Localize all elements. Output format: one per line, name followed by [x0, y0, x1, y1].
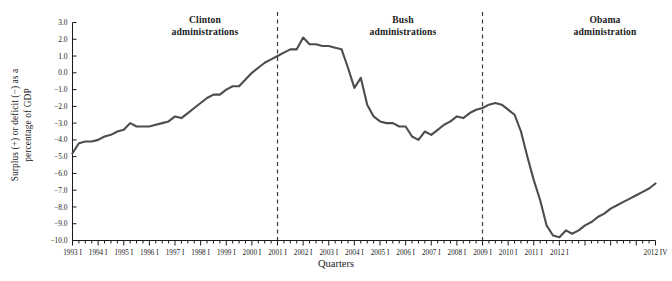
x-axis-tick-label: 2000 I — [243, 249, 262, 257]
x-axis-tick-label: 1995 I — [114, 249, 133, 257]
plot-area: 3.02.01.00.0−1.0−2.0−3.0−4.0−5.0−6.0−7.0… — [0, 0, 672, 281]
x-axis-tick-label: 2010 I — [499, 249, 518, 257]
x-axis-tick-label: 2009 I — [473, 249, 492, 257]
x-axis-tick-label: 2001 I — [268, 249, 287, 257]
y-axis-tick-label: −1.0 — [54, 85, 68, 94]
x-axis-tick-label: 2005 I — [371, 249, 390, 257]
x-axis-tick-label: 2011 I — [525, 249, 544, 257]
chart-figure: Surplus (+) or deficit (−) as a percenta… — [0, 0, 672, 281]
y-axis-tick-label: 3.0 — [58, 18, 68, 27]
series-line-deficit — [73, 38, 656, 238]
y-axis-tick-label: 1.0 — [58, 52, 68, 61]
x-axis-tick-label: 2004 I — [345, 249, 364, 257]
x-axis-tick-label: 1993 I — [63, 249, 82, 257]
y-axis: 3.02.01.00.0−1.0−2.0−3.0−4.0−5.0−6.0−7.0… — [50, 18, 76, 245]
y-axis-tick-label: −3.0 — [54, 119, 68, 128]
y-axis-tick-label: −6.0 — [54, 169, 68, 178]
x-axis-tick-label: 2007 I — [422, 249, 441, 257]
y-axis-tick-label: −2.0 — [54, 102, 68, 111]
x-axis-tick-label: 1997 I — [166, 249, 185, 257]
x-axis-tick-label: 1996 I — [140, 249, 159, 257]
x-axis-tick-label: 2012 I — [550, 249, 569, 257]
y-axis-tick-label: −5.0 — [54, 152, 68, 161]
data-series — [73, 38, 656, 238]
x-axis-tick-label: 2008 I — [448, 249, 467, 257]
administration-dividers — [278, 12, 483, 241]
x-axis-tick-label: 1994 I — [89, 249, 108, 257]
x-axis-tick-label: 1999 I — [217, 249, 236, 257]
x-axis-tick-label: 2003 I — [319, 249, 338, 257]
x-axis-tick-label: 2012 IV — [644, 249, 669, 257]
y-axis-tick-label: −7.0 — [54, 186, 68, 195]
y-axis-tick-label: −10.0 — [50, 236, 67, 245]
y-axis-tick-label: −4.0 — [54, 135, 68, 144]
x-axis: 1993 I1994 I1995 I1996 I1997 I1998 I1999… — [63, 241, 668, 257]
y-axis-tick-label: 0.0 — [58, 68, 68, 77]
y-axis-tick-label: −9.0 — [54, 219, 68, 228]
x-axis-tick-label: 2002 I — [294, 249, 313, 257]
x-axis-tick-label: 2006 I — [396, 249, 415, 257]
y-axis-tick-label: 2.0 — [58, 35, 68, 44]
x-axis-tick-label: 1998 I — [191, 249, 210, 257]
y-axis-tick-label: −8.0 — [54, 203, 68, 212]
